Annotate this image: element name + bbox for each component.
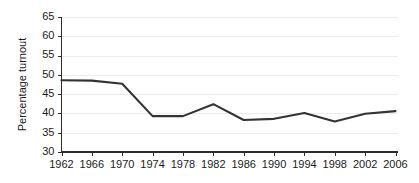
y-tick-label: 60 bbox=[42, 29, 54, 41]
x-tick-label: 1998 bbox=[323, 158, 347, 170]
y-tick-label: 55 bbox=[42, 48, 54, 60]
x-tick-label: 2006 bbox=[383, 158, 407, 170]
x-tick-label: 1970 bbox=[110, 158, 134, 170]
y-tick-label: 65 bbox=[42, 10, 54, 22]
y-axis-title: Percentage turnout bbox=[16, 38, 28, 132]
x-tick-label: 1974 bbox=[140, 158, 164, 170]
y-tick-label: 35 bbox=[42, 126, 54, 138]
y-tick-label: 50 bbox=[42, 68, 54, 80]
x-tick-label: 1990 bbox=[262, 158, 286, 170]
x-tick-label: 2002 bbox=[353, 158, 377, 170]
chart-container: 3035404550556065 19621966197019741978198… bbox=[0, 0, 419, 183]
x-tick-label: 1994 bbox=[292, 158, 316, 170]
y-tick-label: 40 bbox=[42, 106, 54, 118]
x-tick-label: 1966 bbox=[80, 158, 104, 170]
x-tick-label: 1962 bbox=[49, 158, 73, 170]
y-tick-label: 45 bbox=[42, 87, 54, 99]
x-tick-label: 1986 bbox=[231, 158, 255, 170]
line-chart: 3035404550556065 19621966197019741978198… bbox=[0, 0, 419, 183]
y-tick-label: 30 bbox=[42, 145, 54, 157]
x-tick-label: 1982 bbox=[201, 158, 225, 170]
x-tick-label: 1978 bbox=[171, 158, 195, 170]
